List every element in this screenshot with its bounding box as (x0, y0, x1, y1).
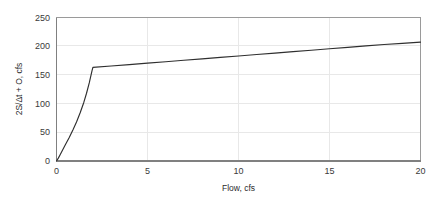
y-tick-label-100: 100 (35, 99, 50, 109)
x-tick-label-0: 0 (54, 166, 59, 176)
grid-lines (57, 18, 421, 162)
x-tick-label-20: 20 (415, 166, 425, 176)
y-tick-label-150: 150 (35, 70, 50, 80)
y-tick-label-200: 200 (35, 41, 50, 51)
x-tick-label-15: 15 (324, 166, 334, 176)
y-tick-label-0: 0 (45, 156, 50, 166)
x-axis-title: Flow, cfs (222, 183, 255, 193)
y-axis-title: 2S/Δt + O, cfs (14, 63, 24, 116)
chart-figure: 0 5 10 15 20 0 50 100 150 200 250 Flow, … (0, 0, 439, 211)
y-tick-label-50: 50 (40, 127, 50, 137)
x-tick-label-5: 5 (145, 166, 150, 176)
x-tick-labels: 0 5 10 15 20 (54, 166, 426, 176)
y-tick-label-250: 250 (35, 13, 50, 23)
x-tick-label-10: 10 (233, 166, 243, 176)
y-tick-labels: 0 50 100 150 200 250 (35, 13, 50, 167)
chart-svg: 0 5 10 15 20 0 50 100 150 200 250 Flow, … (0, 0, 439, 211)
